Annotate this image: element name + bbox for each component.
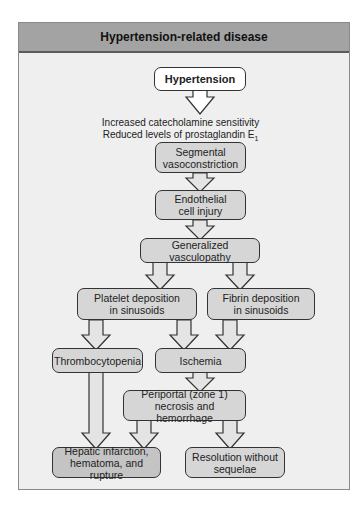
note-line-1: Increased catecholamine sensitivity bbox=[0, 117, 361, 129]
node-segmental-vasoconstriction: Segmental vasoconstriction bbox=[155, 142, 246, 173]
node-fibrin-deposition: Fibrin deposition in sinusoids bbox=[207, 288, 315, 320]
arrow-endothelial-generalized bbox=[186, 220, 214, 240]
node-endothelial-cell-injury: Endothelial cell injury bbox=[155, 190, 246, 220]
node-hypertension: Hypertension bbox=[154, 67, 246, 91]
node-generalized-vasculopathy: Generalized vasculopathy bbox=[140, 238, 260, 263]
arrow-fibrin-ischemia bbox=[216, 320, 244, 350]
node-resolution: Resolution without sequelae bbox=[185, 447, 285, 478]
node-periportal-necrosis: Periportal (zone 1) necrosis and hemorrh… bbox=[123, 390, 246, 421]
mechanism-note: Increased catecholamine sensitivity Redu… bbox=[0, 117, 361, 145]
arrow-platelet-ischemia bbox=[170, 320, 198, 350]
node-thrombocytopenia: Thrombocytopenia bbox=[52, 348, 143, 373]
node-platelet-deposition: Platelet deposition in sinusoids bbox=[77, 288, 197, 320]
node-ischemia: Ischemia bbox=[155, 348, 246, 373]
arrow-hypertension-note bbox=[186, 90, 214, 114]
arrow-generalized-fibrin bbox=[226, 262, 254, 290]
arrow-generalized-platelet bbox=[146, 262, 174, 290]
arrow-periportal-resolution bbox=[216, 420, 244, 449]
node-hepatic-infarction: Hepatic infarction, hematoma, and ruptur… bbox=[52, 447, 161, 478]
node-hypertension-label: Hypertension bbox=[165, 73, 235, 85]
arrow-platelet-thrombocytopenia bbox=[82, 320, 110, 350]
arrow-thrombocytopenia-hepatic bbox=[82, 372, 110, 449]
